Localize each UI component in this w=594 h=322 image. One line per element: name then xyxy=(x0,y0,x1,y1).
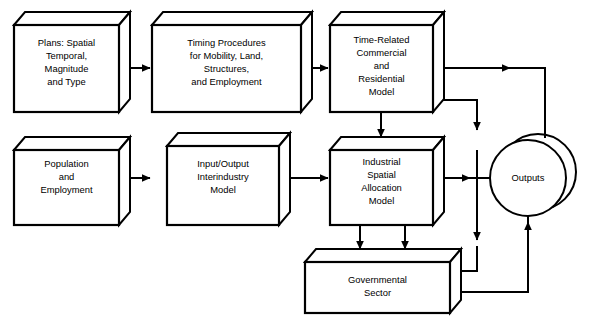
node-input-output-model[interactable]: Input/Output Interindustry Model xyxy=(167,133,290,225)
node-population-top-face xyxy=(14,137,130,150)
node-timing-label-line-1: for Mobility, Land, xyxy=(190,50,263,61)
node-timing-top-face xyxy=(152,12,312,25)
node-input-output-top-face xyxy=(167,133,290,146)
node-input-output-label-line-0: Input/Output xyxy=(197,158,249,169)
node-time-related-model[interactable]: Time-Related Commercial and Residential … xyxy=(330,12,444,112)
node-timing-right-face xyxy=(301,12,312,112)
edge-time-related-to-outputs xyxy=(433,68,545,138)
node-industrial-label-line-2: Allocation xyxy=(361,182,402,193)
node-time-related-right-face xyxy=(433,12,444,112)
node-input-output-right-face xyxy=(279,133,290,225)
node-governmental-sector[interactable]: Governmental Sector xyxy=(305,249,461,313)
node-industrial-allocation-model[interactable]: Industrial Spatial Allocation Model xyxy=(330,137,444,225)
node-time-related-label-line-0: Time-Related xyxy=(354,34,410,45)
node-time-related-label-line-1: Commercial xyxy=(356,47,406,58)
node-industrial-label-line-3: Model xyxy=(369,195,395,206)
node-government-label-line-0: Governmental xyxy=(348,274,407,285)
node-population-label-line-2: Employment xyxy=(40,184,92,195)
node-time-related-top-face xyxy=(330,12,444,25)
node-time-related-label-line-3: Residential xyxy=(358,73,404,84)
node-outputs-label: Outputs xyxy=(512,172,545,183)
node-plans-label-line-0: Plans: Spatial xyxy=(38,37,95,48)
node-government-right-face xyxy=(450,249,461,313)
flowchart-canvas: Plans: Spatial Temporal, Magnitude and T… xyxy=(0,0,594,322)
node-industrial-top-face xyxy=(330,137,444,150)
node-plans[interactable]: Plans: Spatial Temporal, Magnitude and T… xyxy=(14,12,130,112)
node-government-top-face xyxy=(305,249,461,262)
node-population-label-line-0: Population xyxy=(44,158,88,169)
node-government-label-line-1: Sector xyxy=(364,287,391,298)
node-plans-top-face xyxy=(14,12,130,25)
node-timing-label-line-2: Structures, xyxy=(204,63,249,74)
node-input-output-label-line-1: Interindustry xyxy=(197,171,249,182)
node-timing-procedures[interactable]: Timing Procedures for Mobility, Land, St… xyxy=(152,12,312,112)
flowchart-diagram: Plans: Spatial Temporal, Magnitude and T… xyxy=(0,0,594,322)
node-time-related-label-line-4: Model xyxy=(369,86,395,97)
node-plans-label-line-2: Magnitude xyxy=(45,63,89,74)
node-population-right-face xyxy=(119,137,130,225)
node-outputs[interactable]: Outputs xyxy=(490,134,576,216)
node-plans-label-line-3: and Type xyxy=(47,76,85,87)
node-plans-label-line-1: Temporal, xyxy=(46,50,87,61)
node-input-output-label-line-2: Model xyxy=(210,184,236,195)
node-population-employment[interactable]: Population and Employment xyxy=(14,137,130,225)
node-timing-label-line-0: Timing Procedures xyxy=(187,37,266,48)
node-industrial-label-line-0: Industrial xyxy=(362,156,400,167)
node-timing-label-line-3: and Employment xyxy=(191,76,262,87)
node-industrial-right-face xyxy=(433,137,444,225)
node-population-label-line-1: and xyxy=(59,171,75,182)
node-plans-right-face xyxy=(119,12,130,112)
node-time-related-label-line-2: and xyxy=(374,60,390,71)
node-industrial-label-line-1: Spatial xyxy=(367,169,396,180)
